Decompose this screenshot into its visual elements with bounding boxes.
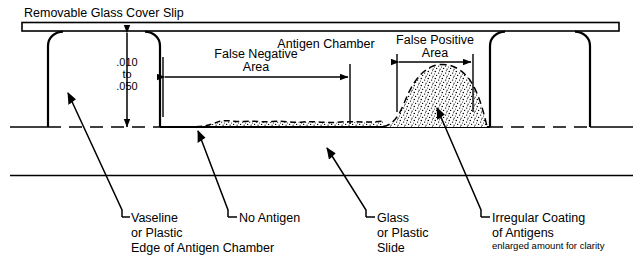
antigen-chamber-title: Antigen Chamber: [277, 37, 374, 51]
diagram-canvas: .010 to .050 False Negative Area Antigen…: [0, 0, 643, 264]
chamber-wall-right: [575, 32, 590, 127]
thickness-value-line-3: .050: [116, 80, 137, 92]
thickness-value-line-2: to: [122, 68, 131, 80]
callout-coating-note: enlarged amount for clarity: [492, 240, 605, 251]
callout-vaseline-line-1: Vaseline: [131, 211, 178, 225]
cover-slip: [22, 23, 619, 32]
antigen-chamber-diagram: .010 to .050 False Negative Area Antigen…: [0, 0, 643, 264]
antigen-coating: [160, 58, 494, 132]
false-negative-label-line-2: Area: [243, 60, 269, 74]
false-positive-label-line-1: False Positive: [396, 33, 474, 47]
callout-leader-no-antigen: [198, 131, 237, 217]
chamber-wall-inner-left: [145, 32, 160, 127]
callout-coating-line-2: of Antigens: [492, 226, 554, 240]
callout-no-antigen-line-1: No Antigen: [239, 211, 300, 225]
callout-slide-line-1: Glass: [377, 211, 409, 225]
callout-slide-line-3: Slide: [377, 241, 405, 255]
callout-slide-line-2: or Plastic: [377, 226, 428, 240]
callout-leader-vaseline: [68, 93, 130, 217]
callout-leader-slide: [327, 148, 375, 217]
false-positive-label-line-2: Area: [422, 46, 448, 60]
cover-slip-label: Removable Glass Cover Slip: [24, 6, 184, 20]
thickness-value-line-1: .010: [116, 56, 137, 68]
chamber-wall-left: [48, 32, 63, 127]
chamber-wall-inner-right: [490, 32, 505, 127]
callout-coating-line-1: Irregular Coating: [492, 211, 585, 225]
callout-vaseline-line-2: or Plastic: [131, 226, 182, 240]
callout-vaseline-line-3: Edge of Antigen Chamber: [131, 241, 274, 255]
